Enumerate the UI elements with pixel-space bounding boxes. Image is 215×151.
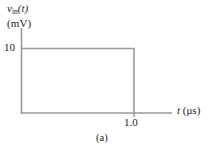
- y-axis-label: vin(t) (mV): [7, 3, 31, 29]
- figure-container: vin(t) (mV) 10 1.0 t (μs) (a): [0, 0, 215, 151]
- y-axis-units: (mV): [7, 18, 31, 29]
- pulse-waveform-plot: [0, 0, 215, 151]
- x-tick-label-1.0: 1.0: [124, 117, 138, 128]
- x-axis-units: (μs): [180, 104, 200, 116]
- y-axis-label-arg: (t): [18, 2, 28, 14]
- figure-caption: (a): [96, 133, 108, 144]
- x-axis-label: t (μs): [177, 105, 200, 116]
- y-tick-label-10: 10: [4, 42, 15, 53]
- pulse-waveform-trace: [22, 49, 135, 114]
